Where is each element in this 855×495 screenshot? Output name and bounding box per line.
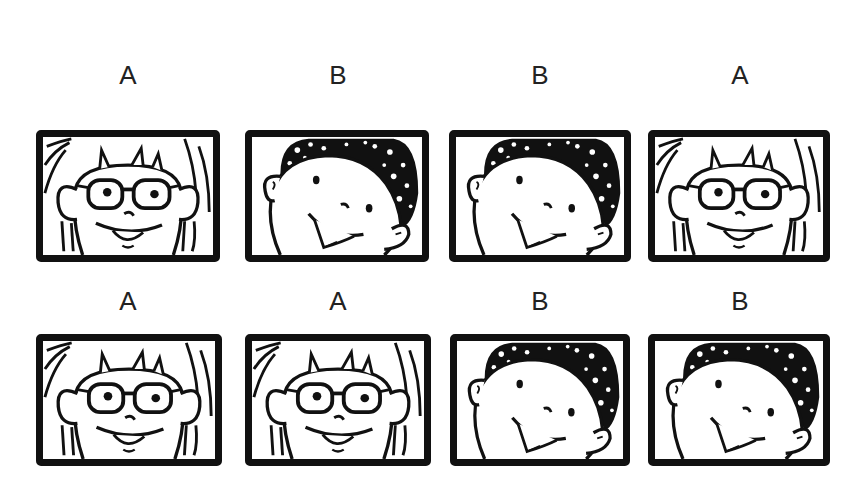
boy-face-icon [456,137,624,255]
boy-face-icon [457,341,623,459]
face-card-curly-haired-boy [449,130,631,262]
card-label: B [510,286,570,316]
face-card-curly-haired-boy [450,334,630,466]
card-label: A [710,60,770,90]
girl-face-icon [655,137,823,255]
girl-face-icon [43,137,213,255]
girl-face-icon [252,341,424,459]
face-card-curly-haired-boy [648,334,830,466]
face-card-curly-haired-boy [245,130,429,262]
card-label: B [510,60,570,90]
card-label: B [710,286,770,316]
face-card-girl-with-glasses [36,334,222,466]
boy-face-icon [252,137,422,255]
girl-face-icon [43,341,215,459]
card-label: A [98,60,158,90]
face-card-girl-with-glasses [245,334,431,466]
face-card-girl-with-glasses [648,130,830,262]
card-label: A [98,286,158,316]
card-label: B [308,60,368,90]
boy-face-icon [655,341,823,459]
face-card-girl-with-glasses [36,130,220,262]
card-label: A [308,286,368,316]
